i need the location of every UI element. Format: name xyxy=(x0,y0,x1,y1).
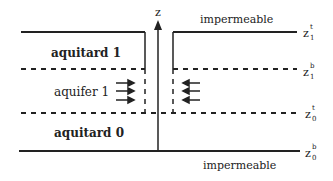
elevation-z1t: z t 1 xyxy=(303,23,314,42)
svg-text:0: 0 xyxy=(312,154,316,162)
svg-text:0: 0 xyxy=(312,115,316,123)
svg-text:z: z xyxy=(305,147,311,160)
svg-text:t: t xyxy=(312,104,315,112)
layer-label-aquitard-1: aquitard 1 xyxy=(51,46,121,60)
elevation-z0t: z t 0 xyxy=(305,104,316,123)
z-axis-arrowhead-icon xyxy=(154,20,162,30)
top-boundary-label: impermeable xyxy=(200,13,273,26)
svg-text:1: 1 xyxy=(310,34,314,42)
svg-text:z: z xyxy=(303,27,309,40)
elevation-z1b: z b 1 xyxy=(303,62,315,81)
z-axis-label: z xyxy=(155,6,161,19)
aquifer-diagram: z aquitard 1 aquifer 1 aquitard 0 imperm… xyxy=(0,0,333,181)
svg-text:b: b xyxy=(310,62,315,70)
inflow-arrows-right xyxy=(183,80,200,103)
inflow-arrows-left xyxy=(116,80,134,103)
svg-text:1: 1 xyxy=(310,73,314,81)
layer-label-aquitard-0: aquitard 0 xyxy=(54,126,124,140)
svg-text:b: b xyxy=(312,143,317,151)
svg-text:t: t xyxy=(310,23,313,31)
svg-text:z: z xyxy=(303,66,309,79)
svg-text:z: z xyxy=(305,108,311,121)
layer-label-aquifer-1: aquifer 1 xyxy=(54,85,109,99)
bottom-boundary-label: impermeable xyxy=(203,159,276,172)
elevation-z0b: z b 0 xyxy=(305,143,317,162)
